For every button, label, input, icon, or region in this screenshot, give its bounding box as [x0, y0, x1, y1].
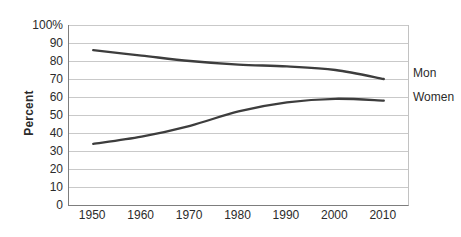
data-lines: [69, 25, 408, 206]
x-tick-label: 1980: [214, 208, 262, 222]
y-tick-label: 30: [18, 144, 63, 158]
y-tick-label: 80: [18, 54, 63, 68]
y-tick-label: 90: [18, 36, 63, 50]
y-tick-label: 40: [18, 126, 63, 140]
y-tick-label: 20: [18, 162, 63, 176]
y-tick-label: 50: [18, 108, 63, 122]
y-tick-label: 10: [18, 180, 63, 194]
women-line: [93, 99, 384, 144]
x-tick-label: 1970: [165, 208, 213, 222]
x-tick-label: 2010: [359, 208, 407, 222]
line-chart-figure: Percent 100%9080706050403020100 19501960…: [0, 0, 461, 237]
y-tick-label: 0: [18, 198, 63, 212]
x-tick-label: 1960: [117, 208, 165, 222]
x-tick-label: 2000: [310, 208, 358, 222]
legend-label-men: Mon: [413, 66, 436, 80]
y-tick-label: 100%: [18, 18, 63, 32]
y-tick-label: 70: [18, 72, 63, 86]
y-tick-label: 60: [18, 90, 63, 104]
x-tick-label: 1950: [68, 208, 116, 222]
men-line: [93, 50, 384, 79]
plot-area: [68, 25, 409, 206]
legend-label-women: Women: [413, 90, 454, 104]
x-tick-label: 1990: [262, 208, 310, 222]
